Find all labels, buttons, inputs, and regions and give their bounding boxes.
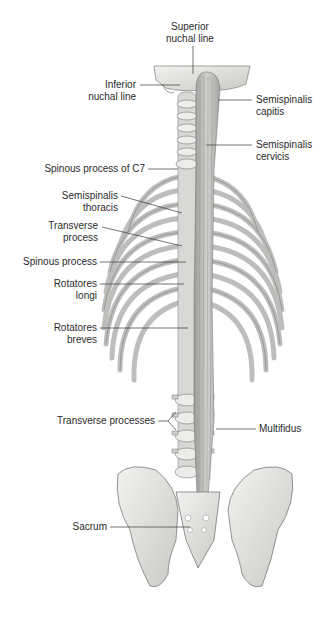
label-semispinalis-capitis: Semispinalis capitis bbox=[256, 94, 312, 118]
label-semispinalis-cervicis: Semispinalis cervicis bbox=[256, 139, 312, 163]
label-line: capitis bbox=[256, 106, 312, 118]
label-line: thoracis bbox=[60, 202, 118, 214]
label-line: Semispinalis bbox=[60, 190, 118, 202]
label-line: Superior bbox=[166, 21, 214, 33]
label-superior-nuchal-line: Superior nuchal line bbox=[166, 21, 214, 45]
label-line: Transverse bbox=[48, 220, 98, 232]
label-spinous-process-c7: Spinous process of C7 bbox=[40, 163, 145, 175]
label-transverse-processes: Transverse processes bbox=[50, 415, 155, 427]
skeleton-illustration bbox=[0, 0, 324, 618]
label-line: nuchal line bbox=[166, 33, 214, 45]
label-transverse-process: Transverse process bbox=[48, 220, 98, 244]
anatomy-figure: Superior nuchal line Inferior nuchal lin… bbox=[0, 0, 324, 618]
label-line: Rotatores bbox=[48, 278, 97, 290]
label-line: Rotatores bbox=[48, 322, 97, 334]
label-line: breves bbox=[48, 334, 97, 346]
label-spinous-process: Spinous process bbox=[20, 256, 97, 268]
label-line: longi bbox=[48, 290, 97, 302]
label-line: cervicis bbox=[256, 151, 312, 163]
label-line: Semispinalis bbox=[256, 139, 312, 151]
label-sacrum: Sacrum bbox=[60, 521, 107, 533]
label-line: Semispinalis bbox=[256, 94, 312, 106]
label-inferior-nuchal-line: Inferior nuchal line bbox=[88, 79, 136, 103]
label-rotatores-longi: Rotatores longi bbox=[48, 278, 97, 302]
transversospinal-muscle bbox=[194, 72, 220, 520]
label-line: Inferior bbox=[88, 79, 136, 91]
label-semispinalis-thoracis: Semispinalis thoracis bbox=[60, 190, 118, 214]
label-rotatores-breves: Rotatores breves bbox=[48, 322, 97, 346]
label-line: process bbox=[48, 232, 98, 244]
label-line: nuchal line bbox=[88, 91, 136, 103]
label-multifidus: Multifidus bbox=[259, 423, 301, 435]
